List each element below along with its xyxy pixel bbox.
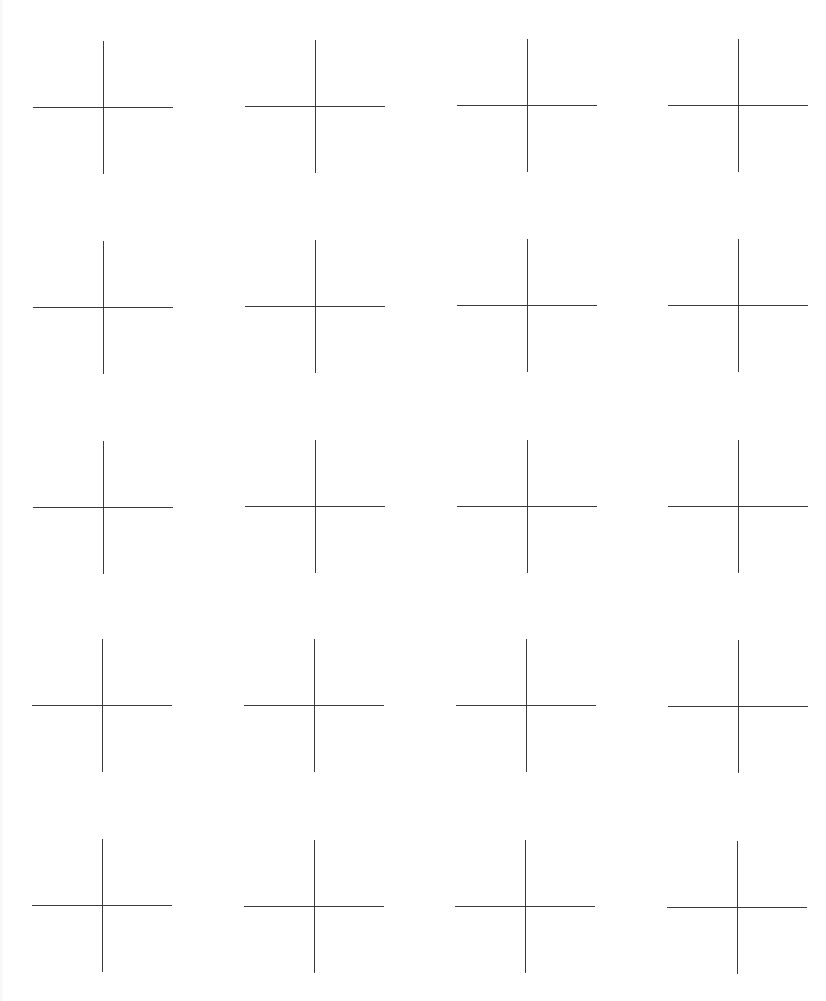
crosshair-vertical-line — [103, 241, 104, 374]
crosshair-vertical-line — [314, 840, 315, 973]
crosshair-vertical-line — [315, 440, 316, 573]
crosshair-vertical-line — [738, 440, 739, 573]
crosshair-mark-r2-c3 — [457, 239, 597, 372]
crosshair-mark-r3-c2 — [245, 440, 385, 573]
crosshair-mark-r1-c3 — [457, 39, 597, 172]
crosshair-mark-r5-c4 — [667, 841, 807, 974]
crosshair-mark-r5-c2 — [244, 840, 384, 973]
crosshair-vertical-line — [527, 239, 528, 372]
crosshair-vertical-line — [738, 39, 739, 172]
crosshair-mark-r3-c3 — [457, 440, 597, 573]
crosshair-mark-r2-c2 — [245, 240, 385, 373]
crosshair-mark-r4-c3 — [456, 639, 596, 772]
crosshair-vertical-line — [102, 839, 103, 972]
crosshair-mark-r3-c1 — [33, 441, 173, 574]
crosshair-vertical-line — [738, 239, 739, 372]
crosshair-vertical-line — [315, 40, 316, 173]
crosshair-vertical-line — [527, 39, 528, 172]
crosshair-vertical-line — [525, 840, 526, 973]
crosshair-mark-r5-c3 — [455, 840, 595, 973]
crosshair-mark-r1-c4 — [668, 39, 808, 172]
crosshair-mark-r2-c1 — [33, 241, 173, 374]
crosshair-vertical-line — [526, 639, 527, 772]
scan-edge-shading — [0, 0, 4, 1001]
crosshair-vertical-line — [103, 41, 104, 174]
crosshair-mark-r1-c2 — [245, 40, 385, 173]
crosshair-vertical-line — [527, 440, 528, 573]
crosshair-mark-r5-c1 — [32, 839, 172, 972]
crosshair-mark-r4-c4 — [668, 640, 808, 773]
crosshair-vertical-line — [314, 639, 315, 772]
crosshair-vertical-line — [103, 441, 104, 574]
crosshair-mark-r2-c4 — [668, 239, 808, 372]
crosshair-vertical-line — [737, 841, 738, 974]
crosshair-mark-r1-c1 — [33, 41, 173, 174]
crosshair-vertical-line — [315, 240, 316, 373]
crosshair-vertical-line — [738, 640, 739, 773]
crosshair-vertical-line — [102, 639, 103, 772]
registration-mark-sheet — [0, 0, 826, 1001]
crosshair-mark-r4-c1 — [32, 639, 172, 772]
crosshair-mark-r4-c2 — [244, 639, 384, 772]
crosshair-mark-r3-c4 — [668, 440, 808, 573]
